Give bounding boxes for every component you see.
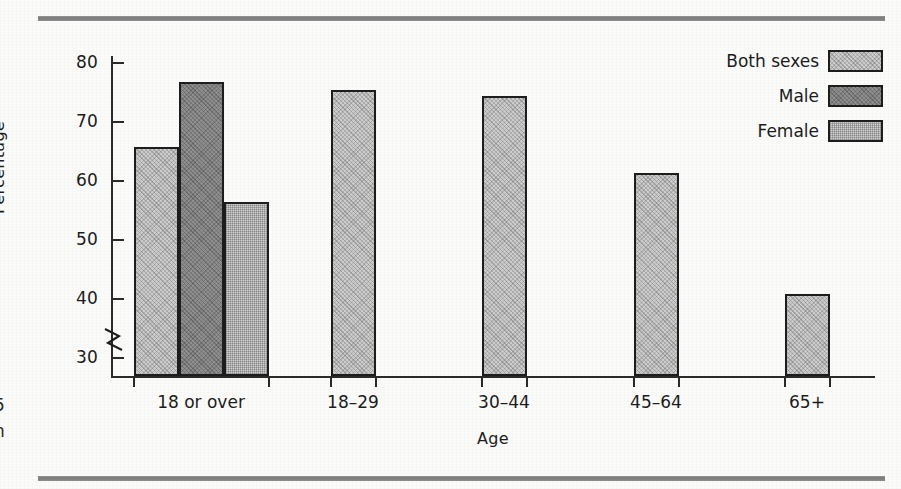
- x-tick-2: [330, 376, 332, 387]
- bar-18-or-over-both-sexes: [134, 147, 179, 376]
- legend-label-both-sexes: Both sexes: [726, 51, 819, 71]
- x-tick-label-65: 65+: [727, 392, 887, 412]
- x-tick-label-30-44: 30–44: [424, 392, 584, 412]
- axis-break-icon: [102, 325, 130, 355]
- bar-65-both-sexes: [785, 294, 830, 376]
- both-sexes-swatch: [828, 50, 883, 72]
- y-tick-label-60: 60: [53, 170, 98, 190]
- x-tick-1: [268, 376, 270, 387]
- y-tick-label-70: 70: [53, 111, 98, 131]
- y-tick-label-30: 30: [53, 347, 98, 367]
- bottom-rule: [38, 476, 885, 481]
- x-tick-8: [784, 376, 786, 387]
- y-tick-80: [111, 62, 124, 64]
- bar-30-44-both-sexes: [482, 96, 527, 376]
- x-tick-0: [133, 376, 135, 387]
- legend-label-male: Male: [779, 86, 819, 106]
- edge-caption-fragment: 5n: [0, 392, 20, 444]
- figure-page: 5n Percentage 304050607080 18 or over18–…: [0, 0, 901, 489]
- x-tick-label-45-64: 45–64: [576, 392, 736, 412]
- x-tick-7: [678, 376, 680, 387]
- y-tick-40: [111, 298, 124, 300]
- male-swatch: [828, 85, 883, 107]
- female-swatch: [828, 120, 883, 142]
- y-tick-50: [111, 239, 124, 241]
- bar-45-64-both-sexes: [634, 173, 679, 376]
- legend-item-both-sexes: Both sexes: [693, 50, 883, 72]
- x-tick-4: [481, 376, 483, 387]
- y-tick-labels: 304050607080: [53, 56, 98, 378]
- y-tick-30: [111, 357, 124, 359]
- legend-item-female: Female: [693, 120, 883, 142]
- x-tick-9: [829, 376, 831, 387]
- y-tick-70: [111, 121, 124, 123]
- bar-18-or-over-female: [224, 202, 269, 376]
- bar-18-29-both-sexes: [331, 90, 376, 376]
- x-tick-6: [633, 376, 635, 387]
- x-tick-5: [526, 376, 528, 387]
- y-tick-label-40: 40: [53, 288, 98, 308]
- x-tick-label-18-or-over: 18 or over: [121, 392, 281, 412]
- top-rule: [38, 16, 885, 21]
- x-axis-title: Age: [111, 429, 875, 448]
- legend: Both sexesMaleFemale: [693, 50, 883, 155]
- y-axis-title: Percentage: [0, 121, 8, 214]
- y-tick-label-80: 80: [53, 52, 98, 72]
- y-tick-label-50: 50: [53, 229, 98, 249]
- legend-label-female: Female: [758, 121, 819, 141]
- bar-18-or-over-male: [179, 82, 224, 376]
- legend-item-male: Male: [693, 85, 883, 107]
- x-tick-3: [375, 376, 377, 387]
- y-tick-60: [111, 180, 124, 182]
- x-axis-line: [111, 376, 875, 378]
- x-tick-label-18-29: 18–29: [273, 392, 433, 412]
